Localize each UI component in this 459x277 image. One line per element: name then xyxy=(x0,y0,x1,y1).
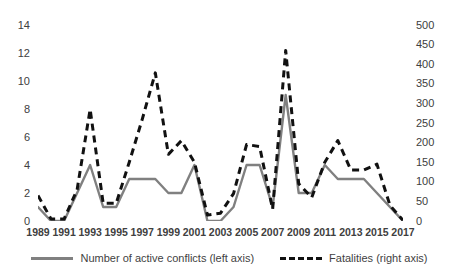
left-axis-tick-2: 2 xyxy=(4,188,30,199)
left-axis-tick-14: 14 xyxy=(4,20,30,31)
left-axis-tick-8: 8 xyxy=(4,104,30,115)
left-axis-tick-4: 4 xyxy=(4,160,30,171)
right-axis-tick-50: 50 xyxy=(416,196,450,207)
legend-label-active-conflicts: Number of active conflicts (left axis) xyxy=(80,252,254,264)
series-line-active-conflicts xyxy=(38,95,403,221)
legend-item-active-conflicts: Number of active conflicts (left axis) xyxy=(31,252,254,264)
series-line-fatalities xyxy=(38,50,403,220)
right-axis-tick-450: 450 xyxy=(416,39,450,50)
series-canvas xyxy=(38,25,403,221)
right-axis-tick-400: 400 xyxy=(416,59,450,70)
legend-item-fatalities: Fatalities (right axis) xyxy=(280,252,427,264)
chart-legend: Number of active conflicts (left axis) F… xyxy=(0,252,459,264)
left-axis-tick-0: 0 xyxy=(4,216,30,227)
solid-line-swatch-icon xyxy=(31,257,73,260)
right-axis-tick-200: 200 xyxy=(416,137,450,148)
right-axis-tick-500: 500 xyxy=(416,20,450,31)
left-axis-tick-10: 10 xyxy=(4,76,30,87)
right-axis-tick-150: 150 xyxy=(416,157,450,168)
left-axis-tick-6: 6 xyxy=(4,132,30,143)
dashed-line-swatch-icon xyxy=(280,257,322,260)
right-axis-tick-350: 350 xyxy=(416,78,450,89)
x-axis-tick-2017: 2017 xyxy=(388,227,418,238)
right-axis-tick-100: 100 xyxy=(416,176,450,187)
line-chart: 02468101214 0501001502002503003504004505… xyxy=(0,0,459,277)
plot-area xyxy=(38,25,403,221)
right-axis-tick-250: 250 xyxy=(416,118,450,129)
right-axis-tick-300: 300 xyxy=(416,98,450,109)
legend-label-fatalities: Fatalities (right axis) xyxy=(329,252,427,264)
right-axis-tick-0: 0 xyxy=(416,216,450,227)
left-axis-tick-12: 12 xyxy=(4,48,30,59)
